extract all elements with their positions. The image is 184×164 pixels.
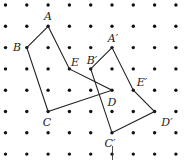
- grid-dot: [174, 46, 177, 49]
- label-E: E: [71, 57, 79, 68]
- grid-dot: [4, 89, 7, 92]
- grid-dot: [25, 89, 28, 92]
- grid-dot: [4, 110, 7, 113]
- grid-dot: [89, 131, 92, 134]
- grid-dot: [174, 25, 177, 28]
- grid-dot: [25, 25, 28, 28]
- label-E-prime: E′: [137, 77, 148, 88]
- grid-dot: [153, 25, 156, 28]
- grid-dot: [46, 131, 49, 134]
- grid-dot: [174, 3, 177, 6]
- label-D: D: [108, 97, 117, 108]
- grid-dot: [4, 131, 7, 134]
- grid-dot: [110, 25, 113, 28]
- grid-dot: [110, 3, 113, 6]
- label-C-prime: C′: [105, 138, 116, 149]
- grid-dot: [25, 110, 28, 113]
- grid-dot: [4, 3, 7, 6]
- grid-dot: [153, 131, 156, 134]
- grid-dot: [174, 152, 177, 155]
- grid-dot: [89, 25, 92, 28]
- grid-dot: [174, 110, 177, 113]
- grid-dot: [46, 46, 49, 49]
- grid-dot: [4, 67, 7, 70]
- grid-dot: [132, 3, 135, 6]
- grid-dot: [110, 152, 113, 155]
- grid-dot: [25, 67, 28, 70]
- label-B-prime: B′: [87, 55, 98, 66]
- label-A: A: [44, 11, 52, 22]
- grid-dot: [174, 131, 177, 134]
- grid-dot: [68, 25, 71, 28]
- grid-dot: [4, 152, 7, 155]
- grid-dot: [68, 3, 71, 6]
- grid-dot: [153, 3, 156, 6]
- grid-dot: [153, 46, 156, 49]
- grid-dot: [174, 89, 177, 92]
- grid-dot: [132, 110, 135, 113]
- grid-dot: [25, 3, 28, 6]
- grid-dot: [132, 131, 135, 134]
- label-C: C: [43, 117, 51, 128]
- grid-dot: [46, 152, 49, 155]
- grid-dot: [89, 46, 92, 49]
- diagram-canvas: [0, 0, 184, 164]
- grid-dot: [132, 25, 135, 28]
- label-B: B: [13, 42, 21, 53]
- grid-dot: [89, 110, 92, 113]
- grid-dot: [25, 131, 28, 134]
- grid-dot: [46, 89, 49, 92]
- grid-dot: [153, 67, 156, 70]
- grid-dot: [46, 67, 49, 70]
- grid-dot: [68, 152, 71, 155]
- dot-grid-diagram: A B C D E A′ B′ C′ D′ E′: [0, 0, 184, 164]
- label-A-prime: A′: [108, 33, 118, 44]
- grid-dot: [25, 152, 28, 155]
- grid-dot: [153, 89, 156, 92]
- grid-dot: [4, 46, 7, 49]
- grid-dot: [132, 46, 135, 49]
- translated-pentagon: [91, 48, 155, 133]
- grid-dot: [89, 89, 92, 92]
- label-D-prime: D′: [161, 117, 172, 128]
- grid-dot: [68, 46, 71, 49]
- grid-dot: [46, 3, 49, 6]
- grid-dot: [132, 67, 135, 70]
- grid-dot: [110, 110, 113, 113]
- grid-dot: [4, 25, 7, 28]
- grid-dot: [132, 152, 135, 155]
- grid-dot: [68, 131, 71, 134]
- grid-dot: [110, 67, 113, 70]
- grid-dot: [89, 152, 92, 155]
- original-pentagon: [27, 26, 112, 111]
- grid-dot: [89, 3, 92, 6]
- grid-dot: [68, 110, 71, 113]
- grid-dot: [68, 89, 71, 92]
- grid-dot: [153, 152, 156, 155]
- grid-dot: [174, 67, 177, 70]
